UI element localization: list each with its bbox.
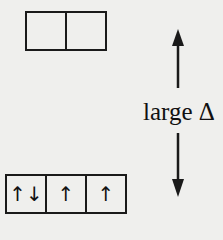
energy-gap-label: large Δ xyxy=(143,98,215,126)
arrow-down-icon xyxy=(172,133,184,197)
arrow-up-icon xyxy=(172,29,184,88)
